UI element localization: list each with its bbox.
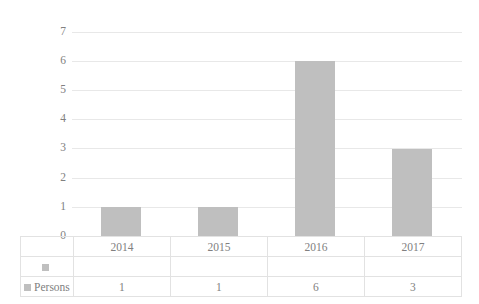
y-tick-label: 7	[40, 26, 66, 38]
y-tick-label: 5	[40, 84, 66, 96]
table-cell-blank-2017	[364, 257, 461, 277]
table-header-2015: 2015	[170, 237, 267, 257]
data-table: 2014 2015 2016 2017 Persons 1 1	[20, 236, 462, 297]
series-marker-icon	[42, 264, 49, 271]
table-cell-blank-2014	[73, 257, 170, 277]
series-marker-icon	[24, 284, 31, 291]
table-corner-cell	[21, 237, 74, 257]
bar-2014	[101, 207, 141, 236]
table-cell-persons-2015: 1	[170, 277, 267, 297]
y-tick-label: 4	[40, 113, 66, 125]
y-tick-label: 2	[40, 172, 66, 184]
table-header-2016: 2016	[267, 237, 364, 257]
y-tick-label: 1	[40, 201, 66, 213]
table-cell-blank-2015	[170, 257, 267, 277]
table-cell-persons-2016: 6	[267, 277, 364, 297]
legend-cell-blank-series	[21, 257, 74, 277]
table-header-2017: 2017	[364, 237, 461, 257]
legend-label-persons: Persons	[34, 281, 70, 293]
bar-2015	[198, 207, 238, 236]
table-row-persons: Persons 1 1 6 3	[21, 277, 462, 297]
y-tick-label: 6	[40, 55, 66, 67]
table-row-blank-series	[21, 257, 462, 277]
bar-2017	[392, 149, 432, 236]
bar-2016	[295, 61, 335, 236]
table-header-2014: 2014	[73, 237, 170, 257]
bars-layer	[72, 32, 462, 236]
column-chart-with-data-table: 7 6 5 4 3 2 1 0 2014 2015 2016	[0, 0, 479, 304]
table-cell-persons-2014: 1	[73, 277, 170, 297]
y-tick-label: 3	[40, 142, 66, 154]
y-axis: 7 6 5 4 3 2 1 0	[38, 32, 66, 236]
table-cell-blank-2016	[267, 257, 364, 277]
table-cell-persons-2017: 3	[364, 277, 461, 297]
table-row-header: 2014 2015 2016 2017	[21, 237, 462, 257]
legend-cell-persons: Persons	[21, 277, 74, 297]
